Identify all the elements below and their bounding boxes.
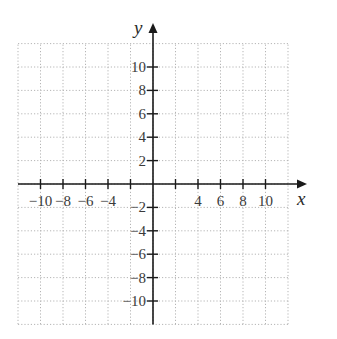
x-tick-label: 8: [239, 193, 247, 209]
y-tick-label: −4: [130, 223, 146, 239]
coordinate-plane: −10−8−6−446810108642−2−4−6−8−10 x y: [0, 0, 337, 339]
y-axis-label: y: [132, 17, 143, 38]
x-tick-label: −4: [100, 193, 116, 209]
y-tick-label: 6: [139, 106, 147, 122]
axes: [18, 23, 307, 324]
x-tick-label: −8: [55, 193, 71, 209]
x-axis-label: x: [296, 188, 306, 209]
y-tick-label: −8: [130, 270, 146, 286]
y-tick-label: 8: [139, 82, 147, 98]
x-tick-label: −10: [29, 193, 52, 209]
x-tick-label: 10: [258, 193, 273, 209]
y-tick-label: 10: [131, 59, 146, 75]
y-tick-label: 4: [139, 129, 147, 145]
x-tick-label: −6: [78, 193, 94, 209]
y-tick-label: 2: [139, 153, 147, 169]
y-tick-label: −6: [130, 246, 146, 262]
y-axis-arrow-icon: [149, 23, 158, 33]
y-tick-label: −2: [130, 199, 146, 215]
y-tick-label: −10: [123, 293, 146, 309]
x-tick-label: 4: [194, 193, 202, 209]
x-tick-label: 6: [217, 193, 225, 209]
